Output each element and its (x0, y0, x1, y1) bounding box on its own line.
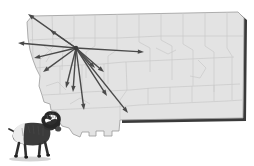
ram-rump-patch (13, 123, 25, 144)
ram-figure (9, 113, 61, 162)
map-figure (0, 0, 254, 166)
bighorn-sheep-illustration (0, 0, 254, 166)
ram-tail (9, 129, 13, 131)
